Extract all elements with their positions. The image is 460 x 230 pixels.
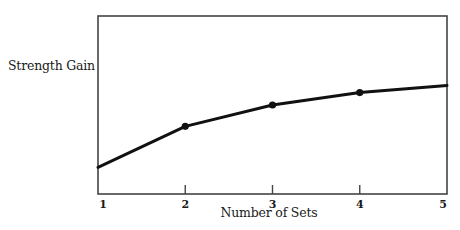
x-axis-label: Number of Sets [0,205,460,220]
data-point-marker [356,89,363,96]
line-chart: 12345 [0,0,460,230]
x-axis-ticks [185,185,360,194]
series-line-strength-gain [98,85,447,167]
data-point-marker [182,123,189,130]
data-point-marker [269,101,276,108]
y-axis-label: Strength Gain [8,58,95,73]
